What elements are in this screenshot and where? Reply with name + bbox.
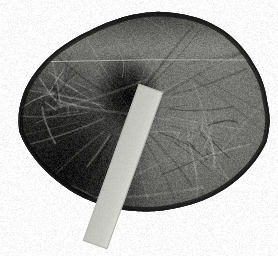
image-viewport: Grayscale specimen photograph with scale… <box>0 0 278 256</box>
specimen-photograph <box>0 0 278 256</box>
